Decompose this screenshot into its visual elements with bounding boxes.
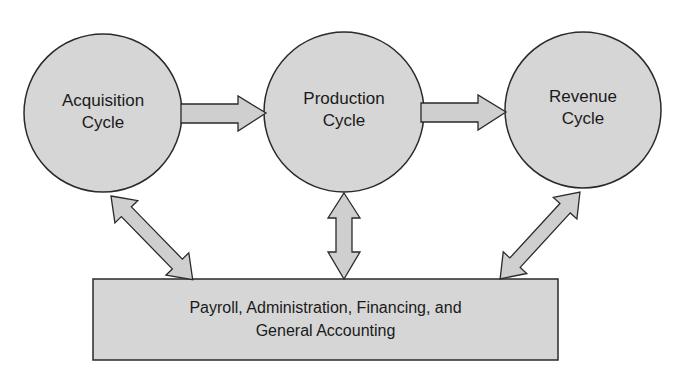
acquisition-cycle-label: Acquisition Cycle	[33, 90, 173, 134]
box-line1: Payroll, Administration, Financing, and	[93, 296, 558, 319]
revenue-line1: Revenue	[513, 86, 653, 108]
arrow-revenue-box	[488, 181, 591, 290]
general-accounting-label: Payroll, Administration, Financing, and …	[93, 296, 558, 342]
production-cycle-label: Production Cycle	[274, 88, 414, 132]
arrow-acquisition-box	[100, 185, 205, 291]
arrow-production-to-revenue	[421, 95, 506, 130]
arrow-production-box	[328, 193, 360, 279]
revenue-cycle-label: Revenue Cycle	[513, 86, 653, 130]
acquisition-line1: Acquisition	[33, 90, 173, 112]
revenue-line2: Cycle	[513, 108, 653, 130]
acquisition-line2: Cycle	[33, 112, 173, 134]
arrow-acquisition-to-production	[181, 96, 266, 131]
production-line1: Production	[274, 88, 414, 110]
box-line2: General Accounting	[93, 319, 558, 342]
production-line2: Cycle	[274, 110, 414, 132]
